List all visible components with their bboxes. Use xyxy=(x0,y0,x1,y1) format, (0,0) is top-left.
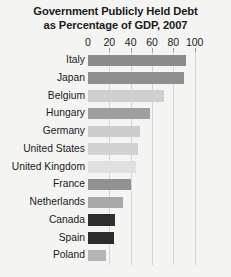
bar-category-label: Poland xyxy=(53,249,85,261)
bar-rows: ItalyJapanBelgiumHungaryGermanyUnited St… xyxy=(0,0,231,213)
bar-row: Canada xyxy=(0,212,231,230)
bar xyxy=(88,108,150,120)
bar-row: Japan xyxy=(0,70,231,88)
bar-category-label: Canada xyxy=(49,214,85,226)
bar xyxy=(88,90,164,102)
bar xyxy=(88,143,138,155)
bar xyxy=(88,232,114,244)
bar-category-label: Belgium xyxy=(48,90,85,102)
bar xyxy=(88,214,115,226)
bar-row: United Kingdom xyxy=(0,159,231,177)
bar xyxy=(88,250,106,262)
bar-row: Poland xyxy=(0,247,231,265)
bar-category-label: Spain xyxy=(59,232,85,244)
bar-row: Italy xyxy=(0,52,231,70)
bar-row: France xyxy=(0,176,231,194)
bar-category-label: Italy xyxy=(66,54,85,66)
bar xyxy=(88,179,131,191)
bar-row: Belgium xyxy=(0,88,231,106)
bar-category-label: France xyxy=(53,178,85,190)
bar-chart-figure: Government Publicly Held Debt as Percent… xyxy=(0,0,231,277)
bar-category-label: United States xyxy=(23,143,85,155)
bar-category-label: Hungary xyxy=(46,107,85,119)
bar-category-label: Japan xyxy=(57,72,85,84)
bar xyxy=(88,72,184,84)
bar-row: Netherlands xyxy=(0,194,231,212)
bar-row: United States xyxy=(0,141,231,159)
bar-row: Hungary xyxy=(0,105,231,123)
bar-category-label: Germany xyxy=(43,125,85,137)
bar-row: Germany xyxy=(0,123,231,141)
bar xyxy=(88,161,136,173)
bar xyxy=(88,126,140,138)
bar xyxy=(88,55,186,67)
bar xyxy=(88,197,123,209)
bar-category-label: Netherlands xyxy=(29,196,85,208)
bar-category-label: United Kingdom xyxy=(12,161,85,173)
bar-row: Spain xyxy=(0,230,231,248)
